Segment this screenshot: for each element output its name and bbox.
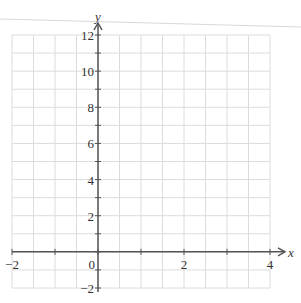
y-tick-label: 2 xyxy=(88,209,95,224)
y-tick-label: 8 xyxy=(88,100,95,115)
y-tick-label: −2 xyxy=(80,281,94,296)
y-tick-label: 10 xyxy=(81,64,94,79)
stray-line xyxy=(0,19,301,27)
x-tick-label: −2 xyxy=(5,257,19,272)
axes xyxy=(12,23,285,292)
y-tick-label: 4 xyxy=(88,173,95,188)
y-tick-label: 6 xyxy=(88,136,95,151)
y-tick-label: 12 xyxy=(81,28,94,43)
x-tick-label: 2 xyxy=(181,257,188,272)
coordinate-plane: −2024−224681012xy xyxy=(0,0,301,303)
x-tick-label: 0 xyxy=(89,257,96,272)
y-axis-label: y xyxy=(93,9,101,24)
x-tick-label: 4 xyxy=(267,257,274,272)
x-axis-label: x xyxy=(287,245,294,260)
tick-labels: −2024−224681012xy xyxy=(5,9,294,296)
